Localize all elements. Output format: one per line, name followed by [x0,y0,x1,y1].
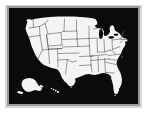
pacific-northwest-coast [27,19,32,23]
hawaii-island-maui [55,90,57,92]
long-island-speck [123,41,124,42]
hawaii-island-kauai [51,88,52,89]
figure-container: United States map Black-background map o… [0,0,147,117]
alaska-inset-group [17,78,44,94]
us-map-canvas[interactable] [9,8,138,104]
hawaii-island-hawaii [57,91,59,93]
border-vt-nh [123,32,124,38]
florida-keys-speck [114,95,115,96]
alaska-landmass [22,78,43,92]
hawaii-inset-group [51,88,59,93]
alaska-aleutian-tail [17,91,24,94]
us-map-svg [9,8,138,104]
gulf-island-speck [71,87,72,88]
outer-banks-speck [121,56,122,57]
hawaii-island-oahu [53,89,55,91]
